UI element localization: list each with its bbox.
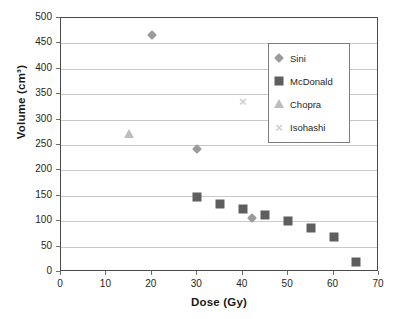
x-tick-label: 10 bbox=[90, 279, 120, 289]
square-marker-icon bbox=[306, 223, 315, 232]
square-marker-icon bbox=[284, 216, 293, 225]
y-tick-label: 0 bbox=[18, 266, 52, 276]
square-marker-icon bbox=[352, 257, 361, 266]
cross-marker-icon: × bbox=[237, 95, 248, 106]
y-tick-label: 100 bbox=[18, 215, 52, 225]
square-marker-icon bbox=[329, 232, 338, 241]
cross-icon: × bbox=[273, 121, 285, 133]
x-tick-label: 30 bbox=[181, 279, 211, 289]
cross-marker-icon: × bbox=[274, 122, 285, 133]
diamond-marker-icon bbox=[147, 30, 157, 40]
y-tick-label: 250 bbox=[18, 139, 52, 149]
legend-item-mcdonald[interactable]: McDonald bbox=[273, 71, 333, 91]
y-tick-label: 350 bbox=[18, 88, 52, 98]
x-tick-label: 70 bbox=[363, 279, 393, 289]
diamond-marker-icon bbox=[274, 53, 284, 63]
triangle-marker-icon bbox=[124, 129, 134, 138]
triangle-icon bbox=[273, 98, 285, 110]
y-tick-label: 450 bbox=[18, 37, 52, 47]
legend-item-isohashi[interactable]: ×Isohashi bbox=[273, 117, 325, 137]
y-tick-label: 400 bbox=[18, 63, 52, 73]
legend-label: Chopra bbox=[290, 99, 321, 110]
x-tick-label: 60 bbox=[318, 279, 348, 289]
gridline bbox=[61, 145, 377, 146]
x-tick-label: 20 bbox=[136, 279, 166, 289]
y-axis-title: Volume (cm³) bbox=[15, 27, 27, 177]
x-tick-label: 0 bbox=[45, 279, 75, 289]
legend-label: Isohashi bbox=[290, 122, 325, 133]
x-tick-mark bbox=[105, 271, 106, 275]
square-marker-icon bbox=[275, 77, 284, 86]
x-tick-mark bbox=[242, 271, 243, 275]
chart-legend: SiniMcDonaldChopra×Isohashi bbox=[268, 43, 350, 143]
x-tick-mark bbox=[333, 271, 334, 275]
gridline bbox=[61, 221, 377, 222]
gridline bbox=[61, 170, 377, 171]
x-tick-label: 50 bbox=[272, 279, 302, 289]
y-tick-label: 500 bbox=[18, 12, 52, 22]
y-tick-label: 50 bbox=[18, 241, 52, 251]
legend-label: Sini bbox=[290, 53, 306, 64]
x-tick-label: 40 bbox=[227, 279, 257, 289]
x-tick-mark bbox=[60, 271, 61, 275]
x-axis-title: Dose (Gy) bbox=[60, 296, 378, 308]
x-tick-mark bbox=[151, 271, 152, 275]
y-tick-label: 150 bbox=[18, 190, 52, 200]
legend-item-sini[interactable]: Sini bbox=[273, 48, 306, 68]
legend-label: McDonald bbox=[290, 76, 333, 87]
x-tick-mark bbox=[378, 271, 379, 275]
triangle-marker-icon bbox=[274, 99, 284, 108]
y-tick-label: 200 bbox=[18, 164, 52, 174]
gridline bbox=[61, 247, 377, 248]
scatter-chart-figure: Volume (cm³) Dose (Gy) 05010015020025030… bbox=[0, 0, 395, 319]
legend-item-chopra[interactable]: Chopra bbox=[273, 94, 321, 114]
square-marker-icon bbox=[193, 193, 202, 202]
square-icon bbox=[273, 75, 285, 87]
x-tick-mark bbox=[196, 271, 197, 275]
diamond-icon bbox=[273, 52, 285, 64]
square-marker-icon bbox=[216, 199, 225, 208]
square-marker-icon bbox=[238, 205, 247, 214]
gridline bbox=[61, 196, 377, 197]
y-tick-label: 300 bbox=[18, 114, 52, 124]
x-tick-mark bbox=[287, 271, 288, 275]
square-marker-icon bbox=[261, 211, 270, 220]
